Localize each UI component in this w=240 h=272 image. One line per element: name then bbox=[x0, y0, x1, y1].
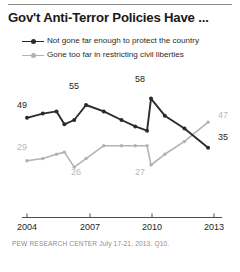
legend-item-not-far-enough: Not gone far enough to protect the count… bbox=[22, 35, 236, 47]
legend-label-too-far: Gone too far in restricting civil libert… bbox=[47, 50, 184, 60]
legend-line-marker-icon bbox=[22, 50, 44, 60]
value-label-light-end: 47 bbox=[218, 111, 228, 120]
top-divider bbox=[8, 4, 232, 5]
chart-legend: Not gone far enough to protect the count… bbox=[22, 35, 236, 63]
line-chart-plot-area: 49 55 58 35 29 26 27 47 bbox=[0, 62, 240, 212]
chart-svg bbox=[0, 62, 240, 212]
value-label-dark-2007: 55 bbox=[69, 82, 79, 91]
value-label-light-start: 29 bbox=[17, 143, 27, 152]
value-label-dark-2010: 58 bbox=[135, 75, 145, 84]
source-note: PEW RESEARCH CENTER July 17-21, 2013. Q1… bbox=[12, 240, 238, 247]
legend-item-too-far: Gone too far in restricting civil libert… bbox=[22, 49, 236, 61]
x-axis bbox=[0, 212, 240, 222]
value-label-dark-end: 35 bbox=[218, 133, 228, 142]
x-tick-2013: 2013 bbox=[197, 222, 231, 232]
series-line-not-far-enough bbox=[27, 99, 208, 148]
x-tick-2004: 2004 bbox=[10, 222, 44, 232]
page-title: Gov't Anti-Terror Policies Have ... bbox=[8, 10, 236, 25]
series-line-too-far bbox=[27, 122, 208, 167]
value-label-dark-start: 49 bbox=[17, 101, 27, 110]
series-points-not-far-enough bbox=[25, 97, 210, 150]
legend-line-marker-icon bbox=[22, 36, 44, 46]
value-label-light-2010: 27 bbox=[135, 168, 145, 177]
value-label-light-2006: 26 bbox=[71, 168, 81, 177]
legend-label-not-far-enough: Not gone far enough to protect the count… bbox=[47, 36, 199, 46]
x-tick-2007: 2007 bbox=[73, 222, 107, 232]
x-axis-tick-labels: 2004 2007 2010 2013 bbox=[0, 222, 240, 236]
x-tick-2010: 2010 bbox=[135, 222, 169, 232]
